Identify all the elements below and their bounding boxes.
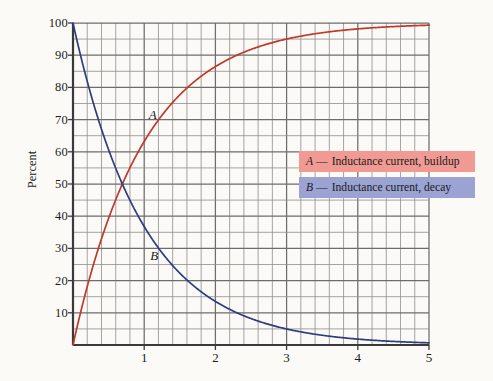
y-tick-20: 20 [30, 273, 68, 288]
y-tick-80: 80 [30, 80, 68, 95]
chart-legend: A — Inductance current, buildup B — Indu… [299, 151, 475, 198]
x-tick-1: 1 [129, 350, 159, 366]
legend-item-a: A — Inductance current, buildup [299, 151, 475, 172]
y-tick-60: 60 [30, 144, 68, 159]
plot-area: A — Inductance current, buildup B — Indu… [73, 23, 429, 345]
legend-dash-a: — [316, 155, 328, 168]
y-tick-90: 90 [30, 48, 68, 63]
y-axis-tick-labels: 102030405060708090100 [27, 23, 68, 345]
legend-label-a: Inductance current, buildup [332, 155, 460, 168]
y-tick-10: 10 [30, 305, 68, 320]
inductance-current-chart: Percent 102030405060708090100 A — Induct… [0, 0, 493, 381]
curve-label-a: A [149, 107, 157, 123]
legend-label-b: Inductance current, decay [332, 181, 451, 194]
x-tick-4: 4 [343, 350, 373, 366]
x-axis-tick-labels: 12345 [73, 350, 429, 370]
legend-key-a: A [306, 155, 313, 168]
x-tick-2: 2 [200, 350, 230, 366]
curve-label-b: B [150, 248, 158, 264]
legend-item-b: B — Inductance current, decay [299, 177, 475, 198]
y-tick-100: 100 [30, 16, 68, 31]
x-tick-3: 3 [272, 350, 302, 366]
y-tick-30: 30 [30, 241, 68, 256]
y-tick-70: 70 [30, 112, 68, 127]
y-tick-40: 40 [30, 209, 68, 224]
x-tick-5: 5 [414, 350, 444, 366]
y-tick-50: 50 [30, 177, 68, 192]
legend-dash-b: — [316, 181, 328, 194]
legend-key-b: B [306, 181, 313, 194]
